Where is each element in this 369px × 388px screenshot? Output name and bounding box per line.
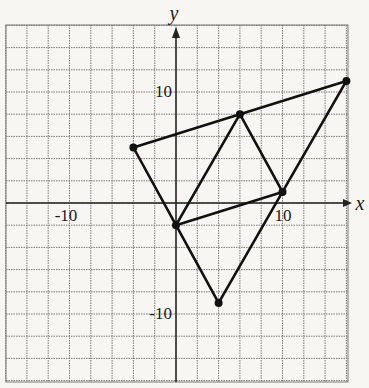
x-axis-label: x — [355, 192, 365, 214]
point-B — [342, 77, 350, 85]
coordinate-plane: y x -10 10 10 -10 — [0, 0, 369, 388]
x-tick-label-10: 10 — [275, 206, 292, 225]
point-D — [236, 110, 244, 118]
y-tick-label-neg10: -10 — [149, 304, 172, 323]
point-E — [279, 188, 287, 196]
y-tick-label-10: 10 — [155, 82, 172, 101]
y-axis-arrow-icon — [172, 27, 180, 38]
axes — [6, 27, 352, 382]
point-F — [215, 299, 223, 307]
vertex-points — [129, 77, 350, 307]
y-axis-label: y — [168, 2, 179, 25]
point-A — [129, 144, 137, 152]
point-C — [172, 221, 180, 229]
x-tick-label-neg10: -10 — [55, 206, 78, 225]
